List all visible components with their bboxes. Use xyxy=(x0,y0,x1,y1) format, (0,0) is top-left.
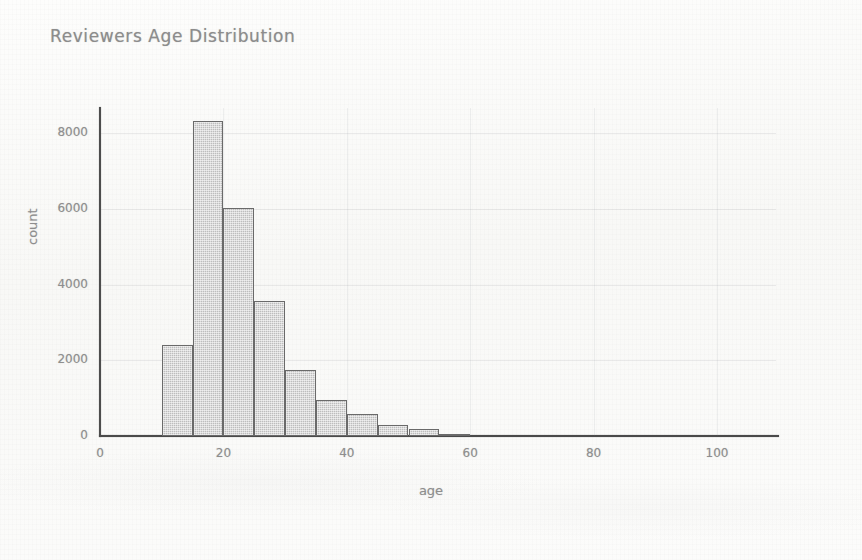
histogram-bar xyxy=(378,425,409,436)
gridline-vertical xyxy=(594,108,595,436)
x-tick-label: 60 xyxy=(440,446,500,460)
histogram-bar xyxy=(439,434,470,436)
histogram-bar xyxy=(193,121,224,436)
x-tick-label: 20 xyxy=(193,446,253,460)
x-tick-label: 40 xyxy=(317,446,377,460)
histogram-bar xyxy=(285,370,316,436)
x-tick-label: 100 xyxy=(687,446,747,460)
gridline-vertical xyxy=(717,108,718,436)
x-tick-label: 0 xyxy=(70,446,130,460)
y-tick-label: 8000 xyxy=(18,125,88,139)
histogram-bar xyxy=(162,345,193,436)
y-axis-label: count xyxy=(25,208,40,245)
y-tick-label: 2000 xyxy=(18,352,88,366)
x-axis-label: age xyxy=(0,483,862,498)
y-tick-label: 4000 xyxy=(18,277,88,291)
chart-page: Reviewers Age Distribution 0200040006000… xyxy=(0,0,862,560)
gridline-vertical xyxy=(470,108,471,436)
histogram-bar xyxy=(316,400,347,436)
x-tick-label: 80 xyxy=(564,446,624,460)
y-tick-label: 0 xyxy=(18,428,88,442)
histogram-plot-area: 02000400060008000020406080100 xyxy=(0,0,862,560)
histogram-bar xyxy=(347,414,378,436)
gridline-vertical xyxy=(347,108,348,436)
histogram-bar xyxy=(223,208,254,436)
histogram-bar xyxy=(254,301,285,436)
histogram-bar xyxy=(409,429,440,436)
y-axis-line xyxy=(99,107,101,437)
